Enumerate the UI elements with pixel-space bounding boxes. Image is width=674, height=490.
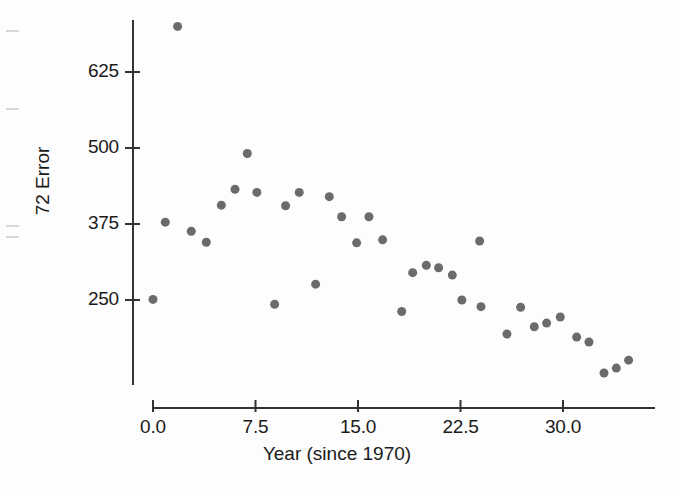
- y-axis-title: 72 Error: [32, 126, 54, 236]
- data-point: [378, 235, 387, 244]
- x-tick-label: 7.5: [216, 416, 296, 438]
- data-point: [364, 212, 373, 221]
- data-point: [311, 280, 320, 289]
- data-point: [530, 322, 539, 331]
- x-tick-label: 0.0: [113, 416, 193, 438]
- y-tick-label: 500: [88, 136, 119, 158]
- data-point: [556, 313, 565, 322]
- data-point: [161, 218, 170, 227]
- x-axis-title: Year (since 1970): [0, 443, 674, 465]
- tick-marks: [125, 72, 563, 412]
- data-point: [337, 212, 346, 221]
- data-point: [243, 149, 252, 158]
- data-point: [457, 296, 466, 305]
- data-point: [542, 319, 551, 328]
- data-point: [187, 227, 196, 236]
- data-point: [572, 333, 581, 342]
- data-point: [325, 192, 334, 201]
- x-tick-label: 22.5: [421, 416, 501, 438]
- data-point: [624, 356, 633, 365]
- data-point: [516, 303, 525, 312]
- data-point: [475, 237, 484, 246]
- data-point-group: [149, 22, 634, 378]
- data-point: [352, 238, 361, 247]
- data-point: [295, 188, 304, 197]
- data-point: [149, 295, 158, 304]
- data-point: [173, 22, 182, 31]
- data-point: [231, 185, 240, 194]
- x-tick-label: 30.0: [523, 416, 603, 438]
- scatter-plot-figure: 2503755006250.07.515.022.530.0 72 Error …: [0, 0, 674, 490]
- data-point: [612, 364, 621, 373]
- data-point: [477, 302, 486, 311]
- y-tick-label: 375: [88, 212, 119, 234]
- data-point: [422, 261, 431, 270]
- axis-lines: [133, 20, 655, 408]
- data-point: [202, 238, 211, 247]
- data-point: [502, 330, 511, 339]
- data-point: [252, 188, 261, 197]
- data-point: [397, 307, 406, 316]
- data-point: [281, 201, 290, 210]
- x-tick-label: 15.0: [318, 416, 398, 438]
- data-point: [600, 368, 609, 377]
- data-point: [434, 263, 443, 272]
- data-point: [217, 201, 226, 210]
- data-point: [408, 268, 417, 277]
- data-point: [448, 271, 457, 280]
- y-tick-label: 250: [88, 288, 119, 310]
- y-tick-label: 625: [88, 60, 119, 82]
- data-point: [584, 337, 593, 346]
- data-point: [270, 300, 279, 309]
